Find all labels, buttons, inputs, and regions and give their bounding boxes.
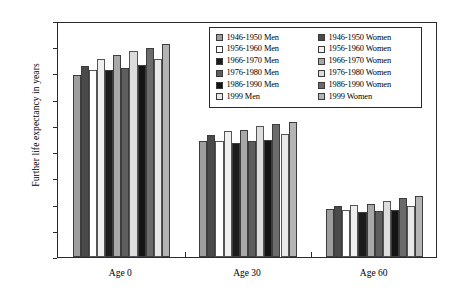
bar — [399, 198, 407, 257]
bar — [375, 211, 383, 257]
bar — [326, 209, 334, 257]
bar — [281, 134, 289, 257]
legend-item: 1946-1950 Men — [216, 32, 314, 44]
bar — [154, 59, 162, 257]
bar — [248, 141, 256, 257]
legend-item: 1946-1950 Women — [318, 32, 416, 44]
legend-label: 1946-1950 Men — [227, 34, 279, 42]
bar — [129, 51, 137, 257]
bar — [391, 210, 399, 257]
legend-swatch — [216, 46, 223, 53]
legend-swatch — [216, 34, 223, 41]
legend-label: 1976-1980 Men — [227, 69, 279, 77]
legend-swatch — [216, 82, 223, 89]
bar — [215, 141, 223, 257]
legend-swatch — [216, 58, 223, 65]
chart-legend: 1946-1950 Men1946-1950 Women1956-1960 Me… — [209, 27, 422, 108]
bar — [121, 68, 129, 257]
legend-item: 1966-1970 Men — [216, 56, 314, 68]
legend-swatch — [318, 46, 325, 53]
bar — [232, 143, 240, 257]
legend-swatch — [318, 70, 325, 77]
legend-label: 1966-1970 Men — [227, 57, 279, 65]
bar — [272, 124, 280, 257]
legend-label: 1986-1990 Women — [329, 81, 392, 89]
legend-label: 1999 Men — [227, 93, 260, 101]
x-axis-tick-label: Age 30 — [202, 268, 292, 278]
legend-label: 1956-1960 Men — [227, 45, 279, 53]
legend-item: 1999 Women — [318, 91, 416, 103]
bar — [81, 66, 89, 257]
legend-label: 1986-1990 Men — [227, 81, 279, 89]
bar — [334, 206, 342, 257]
legend-label: 1976-1980 Women — [329, 69, 392, 77]
legend-label: 1946-1950 Women — [329, 34, 392, 42]
bar-group — [58, 23, 185, 257]
bar — [264, 140, 272, 257]
legend-label: 1956-1960 Women — [329, 45, 392, 53]
legend-label: 1966-1970 Women — [329, 57, 392, 65]
x-axis-tick-label: Age 60 — [329, 268, 419, 278]
legend-label: 1999 Women — [329, 93, 373, 101]
bar — [256, 126, 264, 257]
bar — [73, 75, 81, 257]
bar — [89, 70, 97, 257]
y-axis-tick-mark — [53, 258, 57, 259]
legend-item: 1976-1980 Men — [216, 67, 314, 79]
x-axis-separator — [185, 252, 186, 257]
bar — [113, 55, 121, 257]
legend-swatch — [318, 58, 325, 65]
legend-item: 1999 Men — [216, 91, 314, 103]
bar — [415, 196, 423, 257]
bar — [358, 212, 366, 257]
bar — [350, 205, 358, 257]
legend-swatch — [318, 34, 325, 41]
bar — [105, 70, 113, 257]
bar — [240, 130, 248, 257]
x-axis-tick-label: Age 0 — [75, 268, 165, 278]
chart-container: Further life expectancy in years 0102030… — [0, 0, 454, 297]
bar — [367, 204, 375, 257]
bar — [162, 44, 170, 257]
legend-swatch — [318, 93, 325, 100]
legend-item: 1956-1960 Women — [318, 44, 416, 56]
bar — [342, 210, 350, 257]
bar — [289, 122, 297, 257]
bar — [97, 59, 105, 257]
bar — [207, 135, 215, 257]
bar — [138, 65, 146, 257]
legend-item: 1986-1990 Men — [216, 79, 314, 91]
bar — [383, 201, 391, 257]
bar — [146, 48, 154, 257]
legend-swatch — [318, 82, 325, 89]
bar — [199, 141, 207, 257]
legend-swatch — [216, 93, 223, 100]
legend-swatch — [216, 70, 223, 77]
legend-item: 1986-1990 Women — [318, 79, 416, 91]
bar — [224, 131, 232, 257]
legend-item: 1956-1960 Men — [216, 44, 314, 56]
y-axis-title: Further life expectancy in years — [31, 25, 41, 225]
legend-item: 1976-1980 Women — [318, 67, 416, 79]
x-axis-separator — [311, 252, 312, 257]
legend-item: 1966-1970 Women — [318, 56, 416, 68]
bar — [407, 206, 415, 257]
